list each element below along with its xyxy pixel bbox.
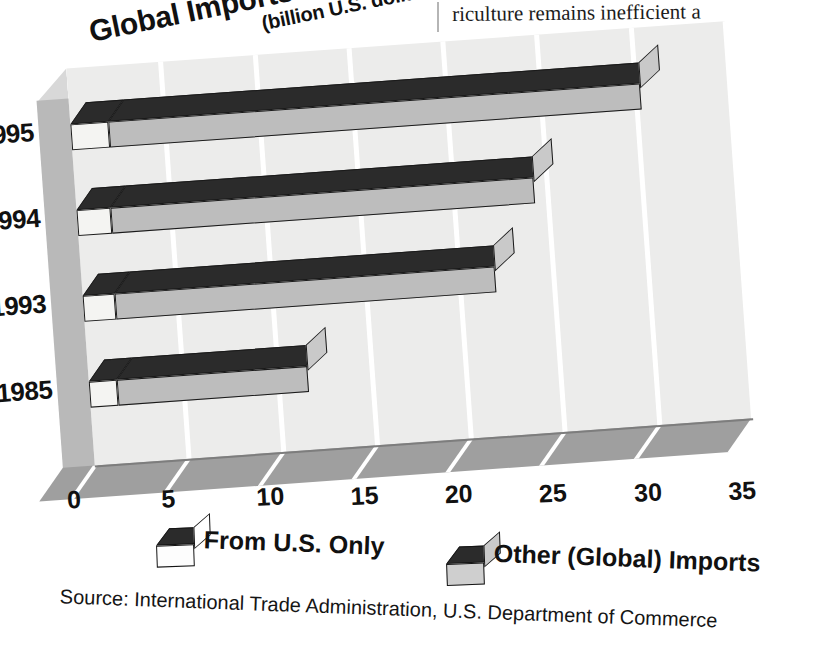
year-label: 1993 — [0, 289, 47, 326]
legend-swatch — [156, 544, 195, 567]
chart-figure: riculture remains inefficient a 19951994… — [0, 0, 815, 667]
chart-side-wall-top — [34, 69, 68, 103]
year-label: 1994 — [0, 203, 41, 240]
bar-segment — [89, 380, 119, 408]
bar-segment — [70, 122, 109, 151]
bar-segment-front-face — [76, 208, 112, 236]
x-axis-tick-label: 15 — [350, 480, 379, 510]
bar-segment — [76, 208, 112, 236]
x-axis-tick-label: 35 — [728, 476, 757, 506]
x-axis-tick-label: 25 — [539, 478, 568, 508]
x-axis-tick-label: 10 — [255, 482, 284, 512]
x-axis-tick-label: 5 — [161, 484, 176, 514]
legend-swatch-front — [446, 563, 485, 586]
bar-segment-front-face — [89, 380, 119, 408]
source-note: Source: International Trade Administrati… — [59, 585, 717, 632]
year-label: 1995 — [0, 117, 35, 154]
legend-label: Other (Global) Imports — [493, 539, 761, 578]
bar-segment-front-face — [70, 122, 109, 151]
year-label: 1985 — [0, 374, 53, 411]
bar-segment — [83, 294, 117, 322]
legend-swatch-front — [156, 544, 195, 567]
legend-label: From U.S. Only — [203, 525, 385, 561]
x-axis-tick-label: 0 — [66, 485, 81, 515]
chart-plot-area: 1995199419931985 05101520253035 Global I… — [0, 0, 815, 667]
legend-swatch — [446, 563, 485, 586]
x-axis-tick-label: 30 — [633, 477, 662, 507]
bar-segment-front-face — [83, 294, 117, 322]
x-axis-tick-label: 20 — [444, 479, 473, 509]
